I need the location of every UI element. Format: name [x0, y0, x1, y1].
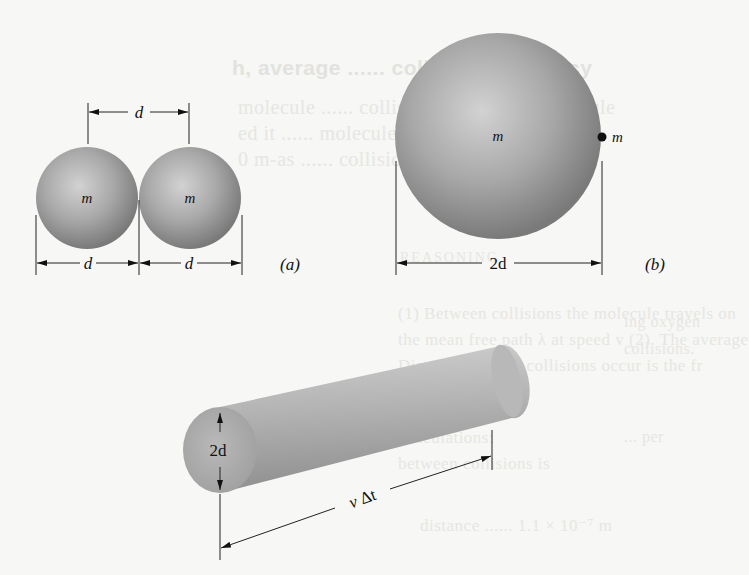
collision-cylinder: 2d v Δt — [183, 342, 530, 560]
cylinder-diameter-label: 2d — [210, 441, 228, 460]
panel-b: m m 2d (b) — [395, 33, 665, 275]
right-diameter-label: d — [185, 254, 194, 273]
point-mass — [598, 133, 607, 142]
cylinder-body — [220, 345, 530, 493]
large-diameter-label: 2d — [490, 254, 508, 273]
point-mass-label: m — [612, 129, 623, 145]
panel-a: m m d d d (a) — [36, 103, 300, 275]
left-diameter-label: d — [84, 254, 93, 273]
center-distance-dimension: d — [88, 103, 189, 144]
sphere-left-mass-label: m — [82, 190, 93, 206]
panel-b-label: (b) — [645, 255, 665, 274]
center-distance-label: d — [135, 103, 144, 122]
panel-a-label: (a) — [280, 255, 300, 274]
large-sphere-mass-label: m — [493, 128, 504, 144]
cylinder-length-label: v Δt — [346, 485, 379, 512]
sphere-right-mass-label: m — [185, 190, 196, 206]
